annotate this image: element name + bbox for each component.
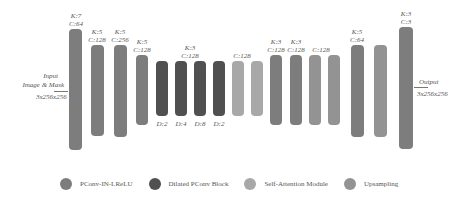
- channel-label: C:128: [312, 46, 330, 54]
- kernel-label: K:5: [88, 28, 106, 36]
- channel-label: C:128: [287, 46, 305, 54]
- dilation-label-2: D:4: [176, 120, 187, 128]
- output-dims: 3x256x256: [417, 90, 448, 99]
- dilation-label-1: D:2: [157, 120, 168, 128]
- kernel-label: K:5: [111, 28, 129, 36]
- upsampling-block-3: [374, 45, 387, 137]
- legend-swatch-icon: [60, 178, 72, 190]
- legend-label: Self-Attention Module: [264, 180, 328, 188]
- dilated-block-4: [213, 61, 225, 116]
- legend-item-dilated: Dilated PConv Block: [149, 178, 229, 190]
- label-b3: K:5 C:256: [111, 28, 129, 44]
- label-dilated: K:3 C:128: [181, 44, 199, 60]
- channel-label: C:128: [233, 52, 251, 60]
- pconv-block-6: [290, 55, 302, 125]
- output-rule: [414, 87, 428, 88]
- label-b16: K:3 C:3: [401, 10, 412, 26]
- legend-label: Upsampling: [364, 180, 398, 188]
- label-b13: C:128: [312, 46, 330, 54]
- upsampling-block-2: [328, 55, 340, 125]
- legend-item-upsampling: Upsampling: [344, 178, 398, 190]
- pconv-block-4: [136, 55, 148, 125]
- pconv-block-2: [91, 45, 104, 136]
- pconv-block-5: [270, 55, 282, 125]
- kernel-label: K:3: [267, 38, 285, 46]
- kernel-label: K:3: [401, 10, 412, 18]
- dilated-block-3: [194, 61, 206, 116]
- channel-label: C:128: [181, 52, 199, 60]
- legend-item-attention: Self-Attention Module: [244, 178, 328, 190]
- kernel-label: K:5: [350, 28, 364, 36]
- label-b14: K:5 C:64: [350, 28, 364, 44]
- legend-item-pconv: PConv-IN-LReLU: [60, 178, 133, 190]
- legend-swatch-icon: [149, 178, 161, 190]
- label-attention: C:128: [233, 52, 251, 60]
- kernel-label: K:3: [287, 38, 305, 46]
- channel-label: C:3: [401, 18, 412, 26]
- input-subtitle: Image & Mask: [12, 81, 64, 90]
- kernel-label: K:7: [69, 12, 83, 20]
- dilation-label-4: D:2: [214, 120, 225, 128]
- legend-label: PConv-IN-LReLU: [80, 180, 133, 188]
- dilated-block-2: [175, 61, 187, 116]
- input-label: Input Image & Mask: [12, 72, 64, 90]
- legend-label: Dilated PConv Block: [169, 180, 229, 188]
- dilation-label-3: D:8: [195, 120, 206, 128]
- label-b11: K:3 C:128: [267, 38, 285, 54]
- legend-swatch-icon: [244, 178, 256, 190]
- label-b2: K:5 C:128: [88, 28, 106, 44]
- label-b1: K:7 C:64: [69, 12, 83, 28]
- pconv-block-7: [351, 45, 364, 137]
- input-rule: [54, 91, 68, 92]
- channel-label: C:128: [88, 36, 106, 44]
- label-b12: K:3 C:128: [287, 38, 305, 54]
- label-b4: K:5 C:128: [133, 38, 151, 54]
- pconv-block-3: [114, 45, 127, 137]
- channel-label: C:256: [111, 36, 129, 44]
- input-dims: 3x256x256: [36, 93, 67, 102]
- legend-swatch-icon: [344, 178, 356, 190]
- output-title: Output: [419, 78, 438, 87]
- attention-block-2: [251, 61, 263, 116]
- channel-label: C:64: [350, 36, 364, 44]
- dilated-block-1: [156, 61, 168, 116]
- kernel-label: K:3: [181, 44, 199, 52]
- legend: PConv-IN-LReLU Dilated PConv Block Self-…: [60, 178, 414, 190]
- channel-label: C:128: [267, 46, 285, 54]
- kernel-label: K:5: [133, 38, 151, 46]
- attention-block-1: [232, 61, 244, 116]
- pconv-block-1: [69, 29, 82, 150]
- pconv-block-8: [399, 27, 413, 149]
- input-title: Input: [12, 72, 64, 81]
- upsampling-block-1: [309, 55, 321, 125]
- channel-label: C:64: [69, 20, 83, 28]
- channel-label: C:128: [133, 46, 151, 54]
